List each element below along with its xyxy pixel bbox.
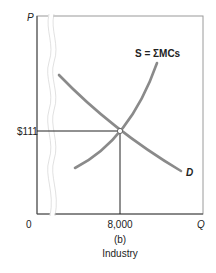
demand-label: D xyxy=(186,167,193,178)
supply-label: S = ΣMCs xyxy=(135,48,181,59)
quantity-tick-label: 8,000 xyxy=(107,219,132,230)
industry-chart: P $111 0 8,000 Q (b) Industry S = ΣMCs D xyxy=(0,0,216,273)
x-axis-label: Q xyxy=(197,219,205,230)
panel-label: (b) xyxy=(114,234,126,245)
price-tick-label: $111 xyxy=(17,126,38,137)
origin-label: 0 xyxy=(26,219,32,230)
equilibrium-point xyxy=(117,128,122,133)
panel-caption: Industry xyxy=(102,248,138,259)
supply-curve xyxy=(75,63,157,168)
y-axis-label: P xyxy=(27,12,34,23)
